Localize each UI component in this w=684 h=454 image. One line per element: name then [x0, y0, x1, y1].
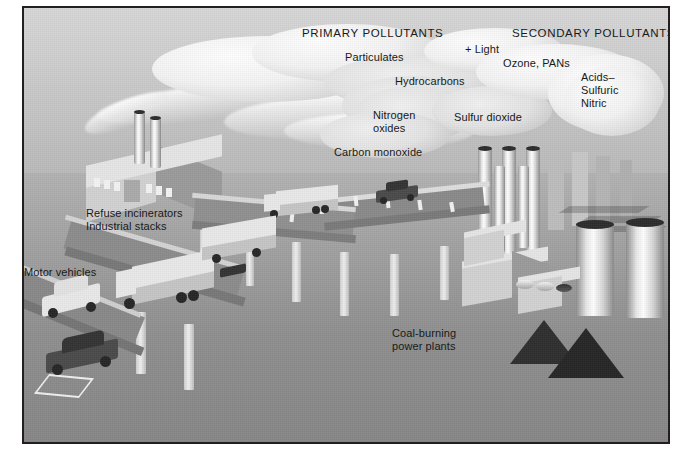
- factory-stack-right: [150, 118, 161, 168]
- label-sulfur-dioxide: Sulfur dioxide: [454, 111, 522, 124]
- powerplant-chimney-5: [518, 166, 529, 248]
- powerplant-chimney-3-top: [526, 146, 540, 151]
- factory-stack-left: [134, 112, 145, 164]
- factory-window: [166, 188, 172, 197]
- vehicle-wheel: [321, 205, 329, 213]
- vehicle-wheel: [312, 206, 320, 214]
- factory-window: [104, 180, 110, 189]
- plant-cylinder-1: [516, 280, 534, 289]
- powerplant-chimney-2-top: [502, 146, 516, 151]
- label-carbon-monoxide: Carbon monoxide: [334, 146, 422, 159]
- highway-pier: [440, 246, 449, 300]
- vehicle-wheel: [52, 364, 63, 375]
- vehicle-wheel: [48, 308, 58, 318]
- factory-stack-left-top: [134, 110, 145, 114]
- factory-window: [156, 186, 162, 195]
- vehicle-wheel: [100, 356, 111, 367]
- vehicle-wheel: [176, 292, 187, 303]
- factory-door: [124, 180, 140, 202]
- plant-cylinder-3: [556, 284, 572, 292]
- vehicle-wheel: [252, 248, 261, 257]
- label-plus-light: + Light: [465, 43, 499, 56]
- label-particulates: Particulates: [345, 51, 404, 64]
- powerplant-shadow-1: [558, 206, 649, 213]
- label-ozone-pans: Ozone, PANs: [503, 57, 570, 70]
- factory-window: [114, 182, 120, 191]
- vehicle-wheel: [124, 298, 135, 309]
- factory-window: [146, 184, 152, 193]
- cooling-tower-2-top: [626, 218, 664, 227]
- vehicle-truck-mid-cab: [264, 193, 280, 212]
- cooling-tower-1-top: [576, 220, 614, 229]
- plant-cylinder-2: [536, 282, 554, 291]
- vehicle-wheel: [188, 290, 199, 301]
- label-nitrogen-oxides: Nitrogen oxides: [373, 109, 415, 135]
- factory-window: [94, 178, 100, 187]
- highway-pier: [292, 242, 301, 302]
- label-refuse-incinerators: Refuse incinerators Industrial stacks: [86, 207, 183, 233]
- factory-stack-right-top: [150, 116, 161, 120]
- vehicle-truck-near-cab: [116, 268, 136, 298]
- label-motor-vehicles: Motor vehicles: [24, 266, 96, 279]
- vehicle-wheel: [407, 194, 414, 201]
- highway-pier: [390, 254, 399, 316]
- highway-pier: [184, 324, 194, 390]
- highway-pier: [340, 252, 349, 316]
- powerplant-chimney-1-top: [478, 146, 492, 151]
- coal-pile-2: [548, 328, 624, 378]
- vehicle-wheel: [212, 254, 221, 263]
- vehicle-wheel: [86, 302, 96, 312]
- header-primary-pollutants: PRIMARY POLLUTANTS: [302, 27, 443, 39]
- label-hydrocarbons: Hydrocarbons: [395, 75, 465, 88]
- powerplant-slab-1: [548, 158, 564, 230]
- powerplant-slab-2: [572, 152, 588, 226]
- header-secondary-pollutants: SECONDARY POLLUTANTS: [512, 27, 670, 39]
- vehicle-wheel: [380, 197, 387, 204]
- cooling-tower-2: [626, 222, 664, 318]
- label-coal-power-plants: Coal-burning power plants: [392, 327, 456, 353]
- cooling-tower-1: [576, 224, 614, 316]
- pollution-diagram: PRIMARY POLLUTANTS SECONDARY POLLUTANTS …: [22, 6, 670, 444]
- label-acids: Acids– Sulfuric Nitric: [581, 71, 618, 110]
